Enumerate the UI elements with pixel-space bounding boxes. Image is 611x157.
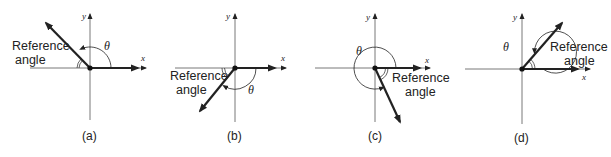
x-axis-label-c: x: [425, 55, 429, 65]
panel-c: [315, 14, 430, 122]
reference-angle-label-c: Reference angle: [392, 71, 452, 99]
caption-c: (c): [368, 129, 382, 143]
caption-d: (d): [514, 131, 529, 145]
reference-label-line1: Reference: [12, 39, 62, 53]
origin-dot: [372, 65, 377, 70]
reference-angle-label-d: Reference angle: [550, 40, 610, 68]
panel-b: [175, 14, 286, 122]
reference-label-line1: Reference: [550, 40, 610, 54]
reference-label-line2: angle: [12, 53, 62, 67]
reference-label-line2: angle: [550, 54, 610, 68]
reference-angle-label-b: Reference angle: [170, 69, 225, 97]
y-axis-label-a: y: [82, 11, 86, 21]
x-axis-label-d: x: [582, 72, 586, 82]
reference-angle-arc-inner: [79, 61, 83, 69]
y-axis-label-c: y: [366, 12, 370, 22]
y-axis-label-b: y: [226, 11, 230, 21]
caption-b: (b): [227, 129, 242, 143]
x-axis-label-b: x: [281, 53, 285, 63]
reference-label-line2: angle: [392, 85, 452, 99]
reference-label-line1: Reference: [170, 69, 225, 83]
theta-label-c: θ: [356, 44, 362, 59]
reference-angle-arc-inner: [529, 61, 533, 69]
reference-angle-label-a: Reference angle: [12, 39, 62, 67]
caption-a: (a): [82, 129, 97, 143]
y-axis-label-d: y: [513, 12, 517, 22]
reference-angle-arc-inner: [379, 68, 385, 78]
panel-d: [465, 14, 590, 124]
theta-label-d: θ: [503, 40, 509, 55]
reference-label-line2: angle: [170, 83, 225, 97]
theta-label-b: θ: [248, 83, 254, 98]
panel-a: [30, 14, 146, 120]
theta-label-a: θ: [104, 39, 110, 54]
origin-dot: [519, 66, 524, 71]
origin-dot: [87, 65, 92, 70]
reference-label-line1: Reference: [392, 71, 452, 85]
origin-dot: [232, 65, 237, 70]
x-axis-label-a: x: [141, 53, 145, 63]
